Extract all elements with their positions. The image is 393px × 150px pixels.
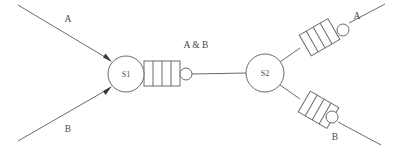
- node-s1[interactable]: S1: [108, 56, 144, 92]
- output-b-label: B: [332, 132, 338, 142]
- diagram-canvas: A B S1 A & B S2: [0, 0, 393, 150]
- ladder-out-a: [299, 19, 340, 56]
- input-a-label: A: [65, 14, 72, 24]
- ladder-out-a-bubble-icon: [337, 24, 349, 36]
- ladder-s1-bubble-icon: [180, 68, 192, 80]
- edge-s1-s2: A & B: [184, 40, 247, 74]
- combined-label: A & B: [184, 40, 209, 50]
- edge-s1-s2-line: [192, 73, 247, 74]
- input-a-arrowhead: [103, 54, 112, 63]
- node-s1-label: S1: [122, 70, 130, 79]
- output-a-branch: A: [280, 4, 385, 62]
- output-b-line-inner: [280, 85, 300, 99]
- node-s2-label: S2: [261, 69, 269, 78]
- node-s2[interactable]: S2: [246, 54, 284, 92]
- input-b-label: B: [65, 124, 71, 134]
- output-b-line-outer: [338, 122, 381, 145]
- output-b-branch: B: [280, 85, 381, 145]
- output-a-label: A: [354, 11, 361, 21]
- input-a-branch: A: [18, 5, 112, 62]
- input-b-arrowhead: [103, 86, 112, 95]
- ladder-out-b-bubble-icon: [326, 111, 338, 123]
- input-b-branch: B: [18, 86, 112, 141]
- output-a-line-inner: [280, 48, 300, 62]
- signal-diagram: A B S1 A & B S2: [0, 0, 393, 150]
- ladder-s1: [144, 61, 192, 86]
